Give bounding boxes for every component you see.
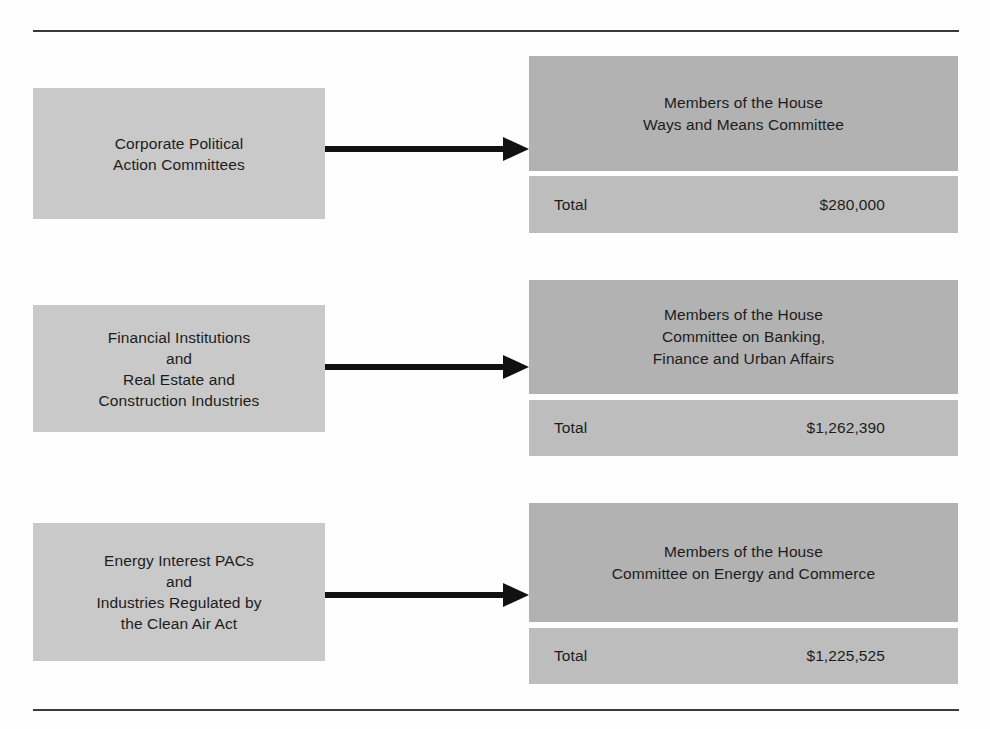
arrow-head — [503, 355, 529, 379]
right-arrow-icon-row-1 — [325, 137, 529, 161]
source-box-label: Financial Institutions and Real Estate a… — [89, 327, 270, 411]
target-box-energy-and-commerce: Members of the House Committee on Energy… — [529, 503, 958, 622]
total-amount: $280,000 — [820, 196, 885, 214]
bottom-divider-rule — [33, 709, 959, 711]
total-label: Total — [554, 196, 587, 214]
flow-diagram: Corporate Political Action Committees Me… — [0, 0, 990, 729]
total-row-banking-finance-urban-affairs: Total $1,262,390 — [529, 400, 958, 456]
total-label: Total — [554, 419, 587, 437]
right-arrow-icon-row-2 — [325, 355, 529, 379]
total-row-ways-and-means: Total $280,000 — [529, 176, 958, 233]
arrow-head — [503, 137, 529, 161]
top-divider-rule — [33, 30, 959, 32]
source-box-financial-real-estate: Financial Institutions and Real Estate a… — [33, 305, 325, 432]
total-label: Total — [554, 647, 587, 665]
target-box-banking-finance-urban-affairs: Members of the House Committee on Bankin… — [529, 280, 958, 394]
target-box-label: Members of the House Committee on Bankin… — [645, 304, 842, 370]
total-amount: $1,225,525 — [806, 647, 885, 665]
source-box-label: Energy Interest PACs and Industries Regu… — [86, 550, 271, 634]
source-box-corporate-pacs: Corporate Political Action Committees — [33, 88, 325, 219]
arrow-shaft — [325, 364, 509, 370]
arrow-head — [503, 583, 529, 607]
source-box-energy-interest-pacs: Energy Interest PACs and Industries Regu… — [33, 523, 325, 661]
right-arrow-icon-row-3 — [325, 583, 529, 607]
source-box-label: Corporate Political Action Committees — [103, 133, 255, 175]
total-row-energy-and-commerce: Total $1,225,525 — [529, 628, 958, 684]
target-box-label: Members of the House Committee on Energy… — [604, 541, 883, 585]
arrow-shaft — [325, 146, 509, 152]
target-box-label: Members of the House Ways and Means Comm… — [635, 92, 852, 136]
arrow-shaft — [325, 592, 509, 598]
total-amount: $1,262,390 — [806, 419, 885, 437]
target-box-ways-and-means: Members of the House Ways and Means Comm… — [529, 56, 958, 171]
